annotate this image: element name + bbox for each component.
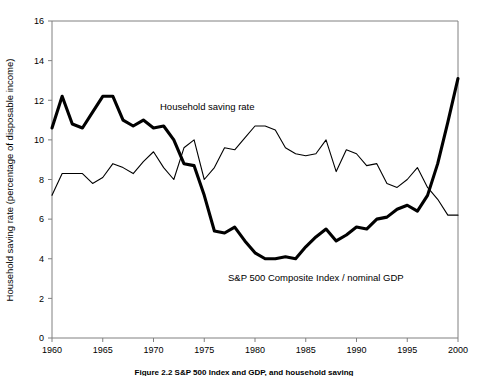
y-tick-label: 4: [39, 254, 44, 264]
y-tick-label: 6: [39, 214, 44, 224]
series-annotations: Household saving rateS&P 500 Composite I…: [160, 101, 404, 283]
x-tick-label: 1980: [245, 345, 265, 355]
x-tick-label: 1970: [143, 345, 163, 355]
series-line-1: [52, 126, 458, 215]
x-tick-label: 1995: [397, 345, 417, 355]
y-tick-label: 12: [34, 96, 44, 106]
series-annotation-1: Household saving rate: [160, 101, 255, 112]
x-tick-label: 2000: [448, 345, 468, 355]
x-tick-label: 1975: [194, 345, 214, 355]
y-tick-label: 16: [34, 16, 44, 26]
y-tick-label: 14: [34, 56, 44, 66]
data-series-group: [52, 78, 458, 258]
y-axis-title: Household saving rate (percentage of dis…: [4, 59, 15, 302]
x-tick-label: 1960: [42, 345, 62, 355]
y-tick-label: 8: [39, 175, 44, 185]
y-axis-ticks: 0246810121416: [34, 16, 52, 343]
y-tick-label: 10: [34, 135, 44, 145]
series-line-2: [52, 78, 458, 258]
series-annotation-2: S&P 500 Composite Index / nominal GDP: [228, 272, 404, 283]
x-tick-label: 1985: [296, 345, 316, 355]
y-tick-label: 0: [39, 333, 44, 343]
x-axis-ticks: 196019651970197519801985199019952000: [42, 338, 468, 355]
x-tick-label: 1990: [346, 345, 366, 355]
x-tick-label: 1965: [93, 345, 113, 355]
plot-frame: [52, 21, 458, 338]
saving-rate-chart: Household saving rate (percentage of dis…: [0, 0, 488, 376]
figure-container: Household saving rate (percentage of dis…: [0, 0, 488, 376]
y-tick-label: 2: [39, 294, 44, 304]
figure-caption: Figure 2.2 S&P 500 Index and GDP, and ho…: [0, 367, 488, 376]
